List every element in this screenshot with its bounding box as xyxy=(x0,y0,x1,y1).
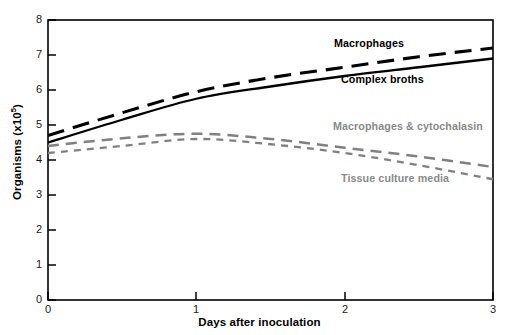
chart-figure: 8 7 6 5 4 3 2 1 0 0 1 2 3 Days after ino… xyxy=(0,0,519,335)
y-tick-label-8: 8 xyxy=(20,13,42,25)
y-axis-title: Organisms (x105) xyxy=(11,72,23,232)
curve-label-macrophages-cytochalasin: Macrophages & cytochalasin xyxy=(333,120,483,132)
curve-label-macrophages: Macrophages xyxy=(334,37,404,49)
y-tick-label-4: 4 xyxy=(20,153,42,165)
y-tick-label-1: 1 xyxy=(20,258,42,270)
x-tick-label-1: 1 xyxy=(185,303,207,315)
y-tick-label-2: 2 xyxy=(20,223,42,235)
x-tick-label-2: 2 xyxy=(334,303,356,315)
plot-frame xyxy=(48,20,493,300)
y-tick-label-5: 5 xyxy=(20,118,42,130)
y-axis-exponent: 5 xyxy=(9,108,18,112)
y-tick-label-7: 7 xyxy=(20,48,42,60)
y-axis-title-suffix: ) xyxy=(11,104,23,108)
x-tick-label-0: 0 xyxy=(37,303,59,315)
x-tick-label-3: 3 xyxy=(482,303,504,315)
y-tick-label-6: 6 xyxy=(20,83,42,95)
line-chart-plot xyxy=(0,0,519,335)
curve-label-tissue-culture-media: Tissue culture media xyxy=(341,172,449,184)
curve-label-complex-broths: Complex broths xyxy=(341,73,424,85)
y-axis-title-text: Organisms (x10 xyxy=(11,112,23,200)
y-tick-label-3: 3 xyxy=(20,188,42,200)
x-axis-title: Days after inoculation xyxy=(0,316,519,328)
